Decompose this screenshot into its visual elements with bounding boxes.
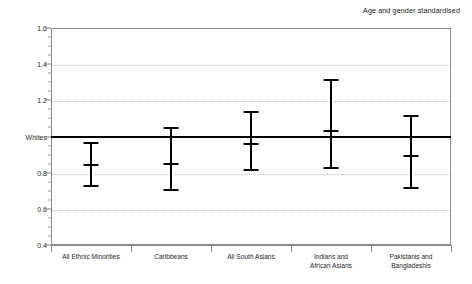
y-axis-minor-tick xyxy=(48,181,51,182)
x-axis-line xyxy=(51,245,451,246)
y-axis-tick-label: 0.6 xyxy=(0,205,47,212)
y-axis-tick-mark xyxy=(45,28,51,29)
y-axis-tick-label: Whites xyxy=(0,133,47,140)
error-bar-point-estimate xyxy=(164,163,179,165)
y-axis-minor-tick xyxy=(48,73,51,74)
error-bar-lower-cap xyxy=(244,169,259,171)
y-axis-minor-tick xyxy=(48,55,51,56)
error-bar-upper-cap xyxy=(244,111,259,113)
x-axis-category-label: Caribbeans xyxy=(126,253,216,262)
y-axis-tick-label: 0.8 xyxy=(0,169,47,176)
y-axis-tick-mark xyxy=(45,100,51,101)
y-axis-minor-tick xyxy=(48,145,51,146)
error-bar-point-estimate xyxy=(324,130,339,132)
error-bar-upper-cap xyxy=(324,79,339,81)
error-bar-stem xyxy=(250,111,252,171)
error-bar-lower-cap xyxy=(164,189,179,191)
y-axis-minor-tick xyxy=(48,217,51,218)
error-bar-stem xyxy=(330,79,332,169)
chart-title: Age and gender standardised xyxy=(363,6,460,15)
error-bar-lower-cap xyxy=(84,185,99,187)
x-axis-tick-mark xyxy=(451,245,452,252)
y-axis-minor-tick xyxy=(48,82,51,83)
error-bar-upper-cap xyxy=(164,127,179,129)
error-bar-point-estimate xyxy=(84,164,99,166)
y-axis-tick-mark xyxy=(45,64,51,65)
y-axis-tick-mark xyxy=(45,208,51,209)
y-axis-minor-tick xyxy=(48,199,51,200)
y-axis-tick-label: 1.2 xyxy=(0,97,47,104)
x-axis-category-label: Pakistanis and Bangladeshis xyxy=(366,253,456,270)
error-bar-stem xyxy=(170,127,172,190)
y-axis-minor-tick xyxy=(48,37,51,38)
error-bar-point-estimate xyxy=(404,155,419,157)
x-axis-tick-mark xyxy=(371,245,372,252)
error-bar-upper-cap xyxy=(84,142,99,144)
y-axis-tick-mark xyxy=(45,172,51,173)
y-axis-tick-label: 1.6 xyxy=(0,25,47,32)
y-axis-minor-tick xyxy=(48,235,51,236)
y-axis-minor-tick xyxy=(48,91,51,92)
gridline xyxy=(52,101,450,102)
x-axis-category-label: All South Asians xyxy=(206,253,296,262)
y-axis-minor-tick xyxy=(48,127,51,128)
error-bar-point-estimate xyxy=(244,143,259,145)
x-axis-category-label: All Ethnic Minorities xyxy=(46,253,136,262)
error-bar-stem xyxy=(410,115,412,189)
error-bar-lower-cap xyxy=(324,167,339,169)
y-axis-minor-tick xyxy=(48,190,51,191)
x-axis-tick-mark xyxy=(131,245,132,252)
error-bar-upper-cap xyxy=(404,115,419,117)
y-axis-minor-tick xyxy=(48,118,51,119)
x-axis-tick-mark xyxy=(51,245,52,252)
chart-figure: Age and gender standardised 1.61.41.2Whi… xyxy=(0,0,472,284)
gridline xyxy=(52,65,450,66)
y-axis-minor-tick xyxy=(48,226,51,227)
y-axis-minor-tick xyxy=(48,109,51,110)
y-axis-minor-tick xyxy=(48,154,51,155)
gridline xyxy=(52,174,450,175)
y-axis-tick-label: 1.4 xyxy=(0,61,47,68)
error-bar-lower-cap xyxy=(404,187,419,189)
gridline xyxy=(52,210,450,211)
x-axis-category-label: Indians and African Asians xyxy=(286,253,376,270)
x-axis-tick-mark xyxy=(211,245,212,252)
y-axis-minor-tick xyxy=(48,46,51,47)
y-axis-tick-label: 0.4 xyxy=(0,242,47,249)
y-axis-minor-tick xyxy=(48,163,51,164)
x-axis-tick-mark xyxy=(291,245,292,252)
